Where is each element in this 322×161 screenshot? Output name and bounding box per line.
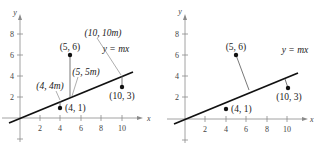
x-tick-6: 6 [79, 124, 83, 133]
annotation-10-10m: (10, 10m) [85, 28, 122, 39]
y-axis-arrow-icon [183, 14, 187, 20]
point-10-3 [286, 86, 290, 90]
x-tick-8: 8 [99, 124, 103, 133]
label-10-3: (10, 3) [109, 91, 134, 102]
y-tick-4: 4 [10, 72, 14, 81]
y-tick-4: 4 [175, 72, 179, 81]
x-tick-8: 8 [265, 125, 269, 134]
x-axis-arrow-icon [302, 117, 308, 121]
y-tick-6: 6 [175, 51, 179, 60]
y-axis-label: y [177, 7, 182, 16]
right-graph-perpendicular-distances: y x 8 6 4 2 2 4 6 8 10 y = mx (4, 1) (5,… [161, 0, 322, 161]
line-label: y = mx [281, 45, 309, 55]
x-axis-label: x [146, 114, 151, 123]
point-4-1 [224, 107, 228, 111]
line-label: y = mx [102, 44, 130, 54]
label-4-1: (4, 1) [231, 104, 252, 115]
point-4-1 [58, 106, 62, 110]
y-tick-8: 8 [10, 30, 14, 39]
point-5-6 [234, 53, 238, 57]
x-tick-2: 2 [203, 125, 207, 134]
label-5-6: (5, 6) [60, 42, 81, 53]
left-graph-svg: y x 8 6 4 2 2 4 6 8 10 y = mx (4, 1) (5,… [0, 0, 161, 161]
label-10-3: (10, 3) [276, 92, 301, 103]
label-5-6: (5, 6) [226, 42, 247, 53]
annotation-5-5m: (5, 5m) [72, 67, 99, 78]
label-4-1: (4, 1) [65, 103, 86, 114]
x-tick-6: 6 [244, 125, 248, 134]
point-5-6 [68, 53, 72, 57]
perpendicular-segment-5 [236, 55, 249, 90]
left-graph-vertical-distances: y x 8 6 4 2 2 4 6 8 10 y = mx (4, 1) (5,… [0, 0, 161, 161]
x-tick-10: 10 [283, 125, 291, 134]
annotation-4-4m: (4, 4m) [36, 81, 63, 92]
x-tick-10: 10 [118, 124, 126, 133]
y-tick-2: 2 [10, 93, 14, 102]
right-graph-svg: y x 8 6 4 2 2 4 6 8 10 y = mx (4, 1) (5,… [161, 0, 322, 161]
y-axis-arrow-icon [18, 14, 22, 20]
x-tick-4: 4 [58, 124, 62, 133]
x-axis-arrow-icon [137, 116, 143, 120]
y-tick-2: 2 [175, 93, 179, 102]
y-axis [183, 14, 187, 143]
leader-5-5m [72, 77, 78, 96]
x-tick-2: 2 [38, 124, 42, 133]
point-10-3 [120, 85, 124, 89]
x-axis-label: x [309, 115, 314, 124]
leader-4-4m [56, 91, 60, 100]
y-tick-6: 6 [10, 51, 14, 60]
y-axis [18, 14, 22, 142]
y-axis-label: y [12, 8, 17, 17]
y-tick-8: 8 [175, 30, 179, 39]
x-tick-4: 4 [224, 125, 228, 134]
